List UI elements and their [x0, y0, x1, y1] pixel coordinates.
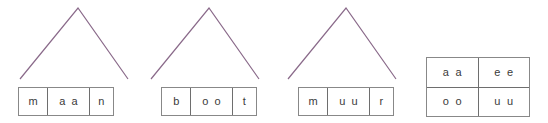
- vowel-pairs-table: a ae eo ou u: [426, 57, 530, 117]
- caret-stroke: [288, 8, 396, 79]
- vowel-table-cell: o o: [427, 88, 479, 117]
- segment-cell: r: [370, 88, 393, 115]
- vowel-table-cell: a a: [427, 58, 479, 87]
- segment-box-muur: mu ur: [298, 87, 394, 116]
- vowel-table-row: a ae e: [427, 58, 529, 88]
- vowel-table-cell: e e: [479, 58, 530, 87]
- phonics-word-diagram: ma anbo otmu ura ae eo ou u: [0, 0, 548, 123]
- vowel-table-row: o ou u: [427, 88, 529, 117]
- segment-cell: u u: [328, 88, 369, 115]
- vowel-table-cell: u u: [479, 88, 530, 117]
- segment-cell: m: [299, 88, 328, 115]
